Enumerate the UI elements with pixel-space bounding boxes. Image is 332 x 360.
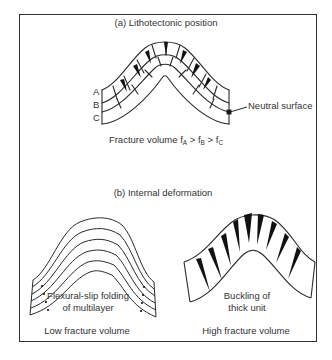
layer-label-c: C bbox=[93, 112, 100, 123]
fold-a-ab-boundary bbox=[102, 55, 229, 103]
left-caption-line2: of multilayer bbox=[62, 302, 113, 313]
low-fracture-volume-label: Low fracture volume bbox=[44, 325, 130, 336]
high-fracture-volume-label: High fracture volume bbox=[202, 325, 290, 336]
fold-a-bc-boundary bbox=[102, 64, 229, 112]
fold-a-inner-boundary bbox=[102, 76, 229, 124]
right-caption-line1: Buckling of bbox=[224, 290, 270, 301]
neutral-surface-leader bbox=[230, 107, 247, 112]
layer-label-a: A bbox=[93, 86, 99, 97]
figure-drawing bbox=[0, 0, 332, 360]
layer-label-b: B bbox=[93, 99, 99, 110]
neutral-surface-marker bbox=[227, 110, 231, 114]
fracture-volume-caption: Fracture volume fA > fB > fC bbox=[109, 134, 223, 146]
left-caption-line1: Flexural-slip folding bbox=[47, 290, 129, 301]
panel-b-title: (b) Internal deformation bbox=[114, 187, 213, 198]
right-caption-line2: thick unit bbox=[228, 302, 266, 313]
fracture-wedge bbox=[180, 50, 187, 64]
neutral-surface-label: Neutral surface bbox=[248, 100, 312, 111]
fracture-wedge bbox=[164, 42, 168, 56]
